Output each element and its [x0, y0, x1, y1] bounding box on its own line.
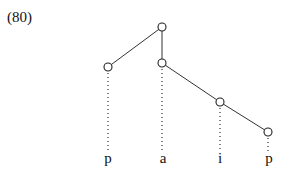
feature-tree-diagram: (80) p a i p [0, 0, 284, 178]
tree-edge [108, 27, 162, 67]
tree-edges [108, 27, 268, 132]
segment-label-a: a [160, 150, 167, 166]
tree-node-n1 [104, 63, 112, 71]
example-number: (80) [7, 9, 32, 26]
tree-node-n3 [216, 98, 224, 106]
tree-node-root [158, 23, 166, 31]
segment-labels: p a i p [104, 150, 273, 166]
tree-edge [220, 102, 268, 132]
tree-edge [162, 63, 220, 102]
segment-label-i: i [218, 150, 222, 166]
association-lines [108, 69, 268, 151]
tree-node-n2 [158, 59, 166, 67]
tree-node-n4 [264, 128, 272, 136]
segment-label-p1: p [104, 150, 112, 166]
segment-label-p2: p [265, 150, 273, 166]
